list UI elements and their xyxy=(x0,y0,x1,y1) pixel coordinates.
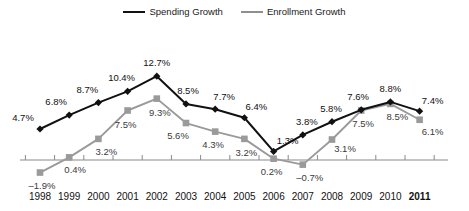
x-axis-label-2011: 2011 xyxy=(409,192,431,202)
data-label: 8.5% xyxy=(387,112,409,122)
data-label: 0.4% xyxy=(64,166,86,176)
data-label: 1.3% xyxy=(277,137,299,147)
x-axis-label-2005: 2005 xyxy=(233,192,255,202)
data-label: 7.6% xyxy=(347,92,369,102)
data-label: 7.5% xyxy=(352,119,374,129)
data-label: 6.1% xyxy=(422,127,444,137)
x-axis-label-2008: 2008 xyxy=(321,192,343,202)
x-axis-label-2000: 2000 xyxy=(87,192,109,202)
data-label: 9.3% xyxy=(149,108,171,118)
data-label: –0.7% xyxy=(296,173,323,183)
data-label: 4.3% xyxy=(202,140,224,150)
data-label: 6.4% xyxy=(246,102,268,112)
x-axis-label-2010: 2010 xyxy=(379,192,401,202)
data-label: 8.7% xyxy=(77,85,99,95)
x-axis-label-1998: 1998 xyxy=(29,192,51,202)
x-axis-tick-labels: 1998199920002001200220032004200520062007… xyxy=(0,192,469,208)
x-axis-label-2004: 2004 xyxy=(204,192,226,202)
data-label: 4.7% xyxy=(12,113,34,123)
growth-line-chart: Spending Growth Enrollment Growth 4.7%6.… xyxy=(0,0,469,211)
x-axis-label-2006: 2006 xyxy=(262,192,284,202)
data-label: 3.8% xyxy=(296,117,318,127)
data-label: –1.9% xyxy=(29,181,56,191)
data-label: 3.2% xyxy=(236,148,258,158)
x-axis-label-2007: 2007 xyxy=(292,192,314,202)
data-label: 0.2% xyxy=(261,167,283,177)
x-axis-label-2002: 2002 xyxy=(146,192,168,202)
data-label: 12.7% xyxy=(143,58,170,68)
x-axis-label-2001: 2001 xyxy=(116,192,138,202)
data-label: 5.8% xyxy=(320,104,342,114)
data-label: 3.2% xyxy=(96,147,118,157)
data-label: 6.8% xyxy=(45,97,67,107)
data-labels-layer: 4.7%6.8%8.7%10.4%12.7%8.5%7.7%6.4%1.3%3.… xyxy=(0,0,469,211)
data-label: 10.4% xyxy=(108,74,135,84)
data-label: 7.4% xyxy=(422,96,444,106)
x-axis-label-1999: 1999 xyxy=(58,192,80,202)
data-label: 8.5% xyxy=(177,86,199,96)
data-label: 8.8% xyxy=(380,84,402,94)
data-label: 3.1% xyxy=(334,144,356,154)
x-axis-label-2003: 2003 xyxy=(175,192,197,202)
data-label: 7.7% xyxy=(213,92,235,102)
x-axis-label-2009: 2009 xyxy=(350,192,372,202)
data-label: 5.6% xyxy=(167,131,189,141)
data-label: 7.5% xyxy=(115,120,137,130)
